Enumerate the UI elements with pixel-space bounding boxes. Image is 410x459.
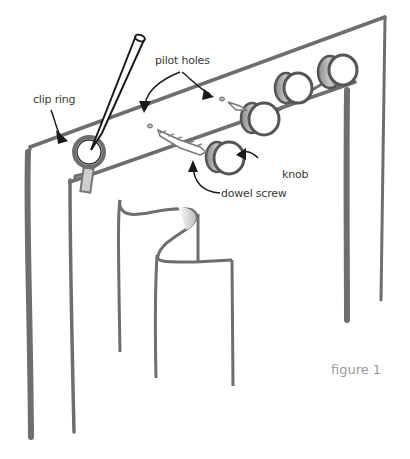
label-pilot-holes: pilot holes	[155, 54, 210, 67]
label-dowel-screw: dowel screw	[221, 187, 287, 200]
curtain-rod-illustration	[0, 0, 410, 459]
knob-middle-right	[275, 73, 312, 103]
label-knob: knob	[282, 168, 308, 181]
curtain	[75, 174, 233, 386]
figure-caption: figure 1	[331, 362, 381, 377]
knob-loose	[206, 142, 244, 174]
dowel-screw	[158, 130, 206, 155]
pencil	[91, 33, 146, 150]
label-clip-ring: clip ring	[33, 93, 75, 106]
pilot-holes	[148, 97, 225, 128]
knob-far-right	[318, 55, 357, 88]
knob-mounted	[241, 103, 279, 135]
screw-upper	[228, 102, 246, 110]
clip-ring	[74, 137, 104, 193]
